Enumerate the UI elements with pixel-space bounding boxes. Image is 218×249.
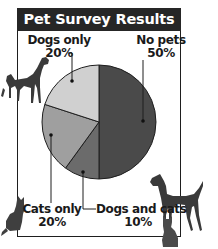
dot-dogs-only bbox=[70, 79, 74, 83]
label-no-pets: No pets 50% bbox=[128, 34, 194, 60]
slice-no-pets bbox=[99, 65, 156, 179]
label-dogs-and-cats: Dogs and cats 10% bbox=[96, 203, 180, 229]
dot-no-pets bbox=[141, 119, 145, 123]
label-dogs-and-cats-pct: 10% bbox=[96, 216, 180, 229]
dog-icon bbox=[1, 57, 49, 103]
label-no-pets-pct: 50% bbox=[128, 47, 194, 60]
dot-dogs-and-cats bbox=[81, 170, 85, 174]
dot-cats-only bbox=[49, 133, 53, 137]
label-dogs-only: Dogs only 20% bbox=[24, 34, 94, 60]
label-cats-only: Cats only 20% bbox=[18, 203, 86, 229]
label-cats-only-pct: 20% bbox=[18, 216, 86, 229]
label-dogs-only-pct: 20% bbox=[24, 47, 94, 60]
